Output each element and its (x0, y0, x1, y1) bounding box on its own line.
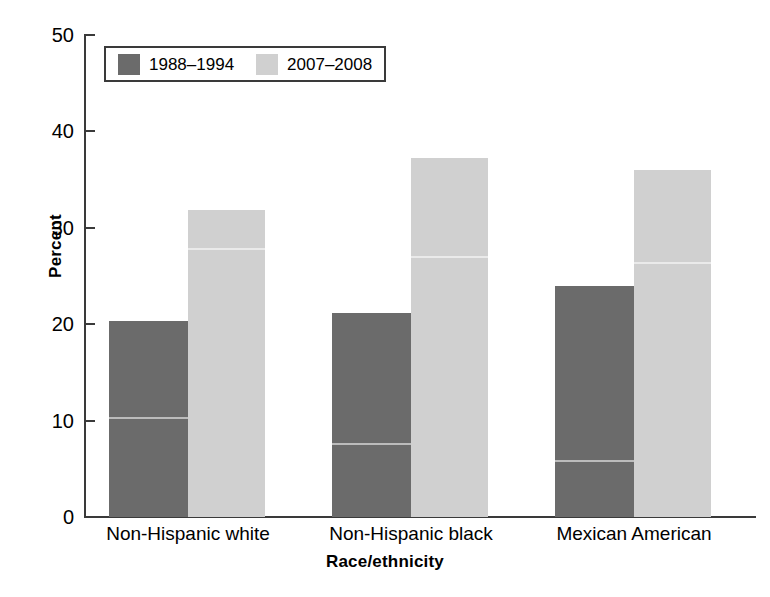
bar-2007-2008-mexican-american (634, 170, 711, 517)
bar-chart-figure: Percent 50 40 30 20 10 0 (0, 0, 770, 597)
scan-artifact (109, 417, 188, 419)
x-axis-title: Race/ethnicity (0, 552, 770, 572)
y-tick-label-0: 0 (30, 507, 74, 527)
scan-artifact (555, 460, 634, 462)
bar-1988-1994-mexican-american (555, 286, 634, 517)
bar-1988-1994-non-hispanic-white (109, 321, 188, 517)
scan-artifact (634, 262, 711, 264)
bar-2007-2008-non-hispanic-black (411, 158, 488, 517)
legend-entry-2007-2008: 2007–2008 (256, 48, 372, 80)
y-axis-title: Percent (46, 186, 66, 306)
x-tick-label-non-hispanic-white: Non-Hispanic white (78, 522, 298, 546)
dark-gray-swatch-icon (118, 54, 140, 75)
x-tick-label-non-hispanic-black: Non-Hispanic black (301, 522, 521, 546)
plot-area (86, 34, 756, 517)
legend-label-1988-1994: 1988–1994 (149, 56, 234, 73)
legend-entry-1988-1994: 1988–1994 (118, 48, 234, 80)
y-tick-label-20: 20 (30, 314, 74, 334)
scan-artifact (411, 256, 488, 258)
y-tick-label-10: 10 (30, 411, 74, 431)
y-tick-label-30: 30 (30, 218, 74, 238)
scan-artifact (188, 248, 265, 250)
light-gray-swatch-icon (256, 54, 278, 75)
x-tick-label-mexican-american: Mexican American (524, 522, 744, 546)
y-tick-label-50: 50 (30, 25, 74, 45)
bar-2007-2008-non-hispanic-white (188, 210, 265, 517)
scan-artifact (332, 443, 411, 445)
y-tick-label-40: 40 (30, 121, 74, 141)
bar-1988-1994-non-hispanic-black (332, 313, 411, 517)
legend-label-2007-2008: 2007–2008 (287, 56, 372, 73)
chart-legend: 1988–1994 2007–2008 (104, 46, 386, 82)
